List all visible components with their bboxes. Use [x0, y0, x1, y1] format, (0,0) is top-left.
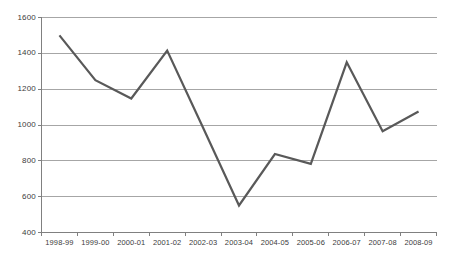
x-axis-ticks [42, 233, 437, 237]
x-tick-label: 2002-03 [185, 238, 221, 247]
y-tick-label: 1600 [6, 13, 36, 22]
x-tick-label: 2007-08 [365, 238, 401, 247]
y-axis-ticks [38, 18, 42, 233]
chart-plot-area [0, 0, 456, 265]
y-tick-label: 1000 [6, 120, 36, 129]
x-tick-label: 2006-07 [329, 238, 365, 247]
series-line [59, 35, 418, 205]
line-chart: 4006008001000120014001600 1998-991999-00… [0, 0, 456, 265]
y-tick-label: 400 [6, 228, 36, 237]
x-tick-label: 1998-99 [42, 238, 78, 247]
x-tick-label: 2005-06 [293, 238, 329, 247]
x-tick-label: 2000-01 [113, 238, 149, 247]
x-tick-label: 2001-02 [149, 238, 185, 247]
y-tick-label: 1400 [6, 48, 36, 57]
y-tick-label: 800 [6, 156, 36, 165]
data-series-line [59, 35, 418, 205]
x-tick-label: 2008-09 [401, 238, 437, 247]
y-tick-label: 1200 [6, 84, 36, 93]
x-tick-label: 1999-00 [77, 238, 113, 247]
gridlines [42, 18, 437, 233]
y-tick-label: 600 [6, 192, 36, 201]
x-tick-label: 2003-04 [221, 238, 257, 247]
x-tick-label: 2004-05 [257, 238, 293, 247]
